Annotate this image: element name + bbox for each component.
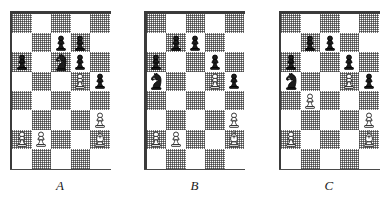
square-c1-r8[interactable] <box>12 149 32 168</box>
white-pawn-icon[interactable] <box>12 130 31 149</box>
square-c3-r4[interactable] <box>51 72 71 91</box>
square-c3-r2[interactable] <box>51 33 71 52</box>
square-c3-r3[interactable] <box>320 52 340 71</box>
square-c2-r3[interactable] <box>32 52 52 71</box>
square-c5-r5[interactable] <box>90 91 110 110</box>
square-c2-r7[interactable] <box>301 130 321 149</box>
square-c2-r6[interactable] <box>301 110 321 129</box>
black-knight-icon[interactable] <box>281 72 300 91</box>
black-pawn-icon[interactable] <box>340 52 359 71</box>
square-c4-r3[interactable] <box>71 52 91 71</box>
square-c1-r3[interactable] <box>281 52 301 71</box>
square-c1-r4[interactable] <box>12 72 32 91</box>
square-c5-r5[interactable] <box>225 91 245 110</box>
square-c1-r7[interactable] <box>12 130 32 149</box>
square-c1-r5[interactable] <box>12 91 32 110</box>
square-c5-r7[interactable] <box>359 130 379 149</box>
square-c5-r2[interactable] <box>225 33 245 52</box>
square-c5-r7[interactable] <box>90 130 110 149</box>
square-c3-r1[interactable] <box>51 14 71 33</box>
square-c4-r5[interactable] <box>71 91 91 110</box>
square-c2-r8[interactable] <box>32 149 52 168</box>
square-c4-r1[interactable] <box>71 14 91 33</box>
square-c1-r5[interactable] <box>281 91 301 110</box>
square-c5-r3[interactable] <box>359 52 379 71</box>
square-c5-r8[interactable] <box>90 149 110 168</box>
square-c3-r4[interactable] <box>320 72 340 91</box>
square-c2-r2[interactable] <box>166 33 186 52</box>
black-pawn-icon[interactable] <box>51 33 70 52</box>
black-pawn-icon[interactable] <box>90 72 109 91</box>
square-c3-r7[interactable] <box>320 130 340 149</box>
square-c2-r2[interactable] <box>32 33 52 52</box>
square-c1-r7[interactable] <box>147 130 167 149</box>
square-c5-r4[interactable] <box>359 72 379 91</box>
square-c2-r1[interactable] <box>32 14 52 33</box>
square-c4-r8[interactable] <box>205 149 225 168</box>
white-pawn-icon[interactable] <box>281 130 300 149</box>
square-c5-r6[interactable] <box>359 110 379 129</box>
square-c2-r8[interactable] <box>301 149 321 168</box>
square-c5-r5[interactable] <box>359 91 379 110</box>
square-c5-r8[interactable] <box>225 149 245 168</box>
square-c3-r5[interactable] <box>320 91 340 110</box>
square-c2-r1[interactable] <box>301 14 321 33</box>
black-pawn-icon[interactable] <box>71 33 90 52</box>
square-c1-r1[interactable] <box>12 14 32 33</box>
square-c4-r3[interactable] <box>340 52 360 71</box>
white-pawn-icon[interactable] <box>166 130 185 149</box>
square-c2-r1[interactable] <box>166 14 186 33</box>
square-c1-r2[interactable] <box>12 33 32 52</box>
square-c5-r7[interactable] <box>225 130 245 149</box>
square-c4-r8[interactable] <box>340 149 360 168</box>
square-c1-r7[interactable] <box>281 130 301 149</box>
white-pawn-icon[interactable] <box>32 130 51 149</box>
square-c1-r3[interactable] <box>147 52 167 71</box>
square-c1-r2[interactable] <box>281 33 301 52</box>
square-c2-r5[interactable] <box>166 91 186 110</box>
square-c3-r8[interactable] <box>320 149 340 168</box>
square-c5-r2[interactable] <box>90 33 110 52</box>
white-pawn-icon[interactable] <box>147 130 166 149</box>
square-c1-r1[interactable] <box>147 14 167 33</box>
square-c3-r1[interactable] <box>320 14 340 33</box>
black-pawn-icon[interactable] <box>225 72 244 91</box>
square-c4-r5[interactable] <box>205 91 225 110</box>
black-pawn-icon[interactable] <box>359 72 378 91</box>
square-c2-r3[interactable] <box>301 52 321 71</box>
square-c4-r7[interactable] <box>71 130 91 149</box>
square-c1-r5[interactable] <box>147 91 167 110</box>
white-bishop-icon[interactable] <box>225 130 244 149</box>
square-c4-r2[interactable] <box>205 33 225 52</box>
square-c4-r4[interactable] <box>340 72 360 91</box>
square-c5-r2[interactable] <box>359 33 379 52</box>
square-c5-r6[interactable] <box>225 110 245 129</box>
white-bishop-icon[interactable] <box>90 130 109 149</box>
square-c3-r1[interactable] <box>186 14 206 33</box>
square-c3-r2[interactable] <box>186 33 206 52</box>
square-c4-r7[interactable] <box>205 130 225 149</box>
square-c4-r1[interactable] <box>205 14 225 33</box>
square-c4-r6[interactable] <box>71 110 91 129</box>
square-c3-r6[interactable] <box>51 110 71 129</box>
square-c5-r1[interactable] <box>225 14 245 33</box>
square-c1-r8[interactable] <box>147 149 167 168</box>
white-pawn-icon[interactable] <box>225 111 244 130</box>
square-c4-r6[interactable] <box>205 110 225 129</box>
black-pawn-icon[interactable] <box>166 33 185 52</box>
square-c3-r2[interactable] <box>320 33 340 52</box>
square-c5-r1[interactable] <box>90 14 110 33</box>
square-c2-r2[interactable] <box>301 33 321 52</box>
square-c2-r6[interactable] <box>32 110 52 129</box>
black-pawn-icon[interactable] <box>12 52 31 71</box>
square-c2-r5[interactable] <box>32 91 52 110</box>
square-c2-r4[interactable] <box>166 72 186 91</box>
square-c3-r3[interactable] <box>51 52 71 71</box>
square-c1-r8[interactable] <box>281 149 301 168</box>
black-pawn-icon[interactable] <box>71 52 90 71</box>
square-c2-r7[interactable] <box>166 130 186 149</box>
square-c1-r6[interactable] <box>147 110 167 129</box>
black-pawn-icon[interactable] <box>301 33 320 52</box>
white-bishop-icon[interactable] <box>359 130 378 149</box>
square-c1-r6[interactable] <box>281 110 301 129</box>
